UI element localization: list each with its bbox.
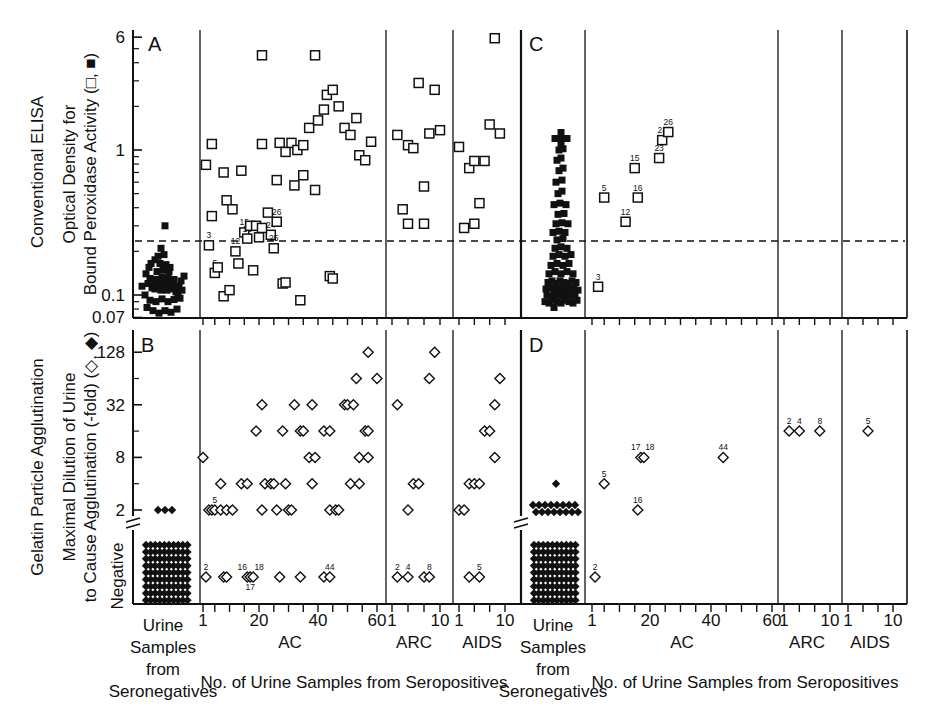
marker-open-square — [328, 274, 337, 283]
y-tick-label: 0.1 — [101, 286, 125, 305]
x-tick-label: 1 — [779, 611, 788, 630]
sample-number-label: 5 — [212, 495, 217, 505]
marker-filled-square — [161, 251, 168, 258]
marker-filled-square — [559, 188, 566, 195]
marker-open-diamond — [307, 479, 317, 489]
marker-open-square — [485, 120, 494, 129]
marker-open-square — [314, 116, 323, 125]
marker-open-diamond — [363, 452, 373, 462]
marker-open-diamond — [718, 452, 728, 462]
marker-filled-square — [168, 309, 175, 316]
marker-open-diamond — [216, 479, 226, 489]
marker-open-diamond — [392, 572, 402, 582]
sample-number-label: 2 — [787, 416, 792, 426]
panel-letter-d: D — [529, 334, 543, 357]
panel-letter-a: A — [148, 33, 161, 56]
marker-open-square — [594, 282, 603, 291]
marker-open-square — [257, 51, 266, 60]
marker-open-square — [257, 223, 266, 232]
marker-filled-square — [552, 135, 559, 142]
marker-filled-square — [148, 260, 155, 267]
sample-number-label: 18 — [645, 442, 655, 452]
marker-open-diamond — [403, 572, 413, 582]
marker-open-square — [269, 244, 278, 253]
x-axis-seropositives-label-left: No. of Urine Samples from Seropositives — [200, 673, 507, 693]
y-axis-title-elisa-line2: Bound Peroxidase Activity (□, ■) — [80, 53, 101, 296]
series-A-ARC — [393, 78, 445, 228]
marker-open-square — [455, 142, 464, 151]
x-tick-label: 10 — [884, 611, 903, 630]
sample-number-label: 17 — [631, 442, 641, 452]
marker-filled-square — [150, 307, 157, 314]
marker-filled-square — [147, 297, 154, 304]
panel-letter-b: B — [141, 334, 154, 357]
marker-filled-square — [557, 200, 564, 207]
marker-filled-diamond — [552, 480, 560, 488]
series-D-seronegatives_block — [530, 541, 580, 605]
marker-filled-square — [165, 298, 172, 305]
marker-filled-square — [139, 283, 146, 290]
sample-number-label: 4 — [797, 416, 802, 426]
marker-open-square — [237, 166, 246, 175]
marker-open-diamond — [403, 505, 413, 515]
sero-label-line: Urine — [499, 615, 608, 637]
marker-open-square — [328, 85, 337, 94]
marker-open-diamond — [590, 572, 600, 582]
marker-filled-square — [550, 229, 557, 236]
marker-filled-square — [171, 276, 178, 283]
marker-filled-square — [558, 243, 565, 250]
marker-filled-square — [552, 245, 559, 252]
y-axis-ticks — [133, 37, 142, 510]
sample-number-label: 2 — [395, 562, 400, 572]
marker-filled-square — [158, 245, 165, 252]
marker-open-square — [296, 296, 305, 305]
marker-open-square — [281, 147, 290, 156]
sample-number-label: 16 — [238, 562, 248, 572]
marker-filled-square — [562, 229, 569, 236]
y-tick-label: 1 — [116, 141, 125, 160]
marker-filled-square — [565, 220, 572, 227]
marker-open-diamond — [354, 479, 364, 489]
group-label-ac-left: AC — [278, 633, 302, 653]
marker-open-square — [490, 34, 499, 43]
marker-open-diamond — [430, 347, 440, 357]
marker-open-square — [425, 129, 434, 138]
marker-filled-square — [560, 262, 567, 269]
marker-filled-square — [546, 270, 553, 277]
x-tick-label: 1 — [454, 611, 463, 630]
group-label-aids-left: AIDS — [462, 633, 502, 653]
marker-open-square — [664, 128, 673, 137]
marker-open-square — [272, 217, 281, 226]
marker-open-diamond — [495, 374, 505, 384]
marker-filled-square — [550, 253, 557, 260]
marker-filled-square — [179, 287, 186, 294]
marker-filled-square — [575, 287, 582, 294]
marker-filled-square — [157, 260, 164, 267]
marker-open-square — [393, 130, 402, 139]
x-tick-label: 1 — [387, 611, 396, 630]
x-tick-label: 40 — [702, 611, 721, 630]
series-B-ARC: 248 — [392, 347, 439, 582]
marker-open-square — [430, 85, 439, 94]
marker-filled-square — [153, 298, 160, 305]
marker-filled-square — [555, 211, 562, 218]
marker-open-diamond — [275, 572, 285, 582]
marker-filled-square — [570, 270, 577, 277]
y-tick-label: 8 — [116, 448, 125, 467]
panel-letter-c: C — [529, 33, 543, 56]
marker-filled-square — [155, 253, 162, 260]
sample-number-label: 18 — [254, 562, 264, 572]
marker-open-square — [222, 196, 231, 205]
marker-open-square — [480, 156, 489, 165]
marker-open-square — [352, 114, 361, 123]
x-tick-label: 20 — [641, 611, 660, 630]
sample-number-label: 5 — [602, 183, 607, 193]
marker-open-diamond — [272, 505, 282, 515]
marker-open-square — [231, 247, 240, 256]
marker-filled-square — [566, 260, 573, 267]
sample-number-label: 44 — [325, 562, 335, 572]
marker-open-diamond — [490, 400, 500, 410]
sample-number-label: 44 — [718, 442, 728, 452]
marker-filled-square — [568, 251, 575, 258]
marker-open-square — [311, 185, 320, 194]
